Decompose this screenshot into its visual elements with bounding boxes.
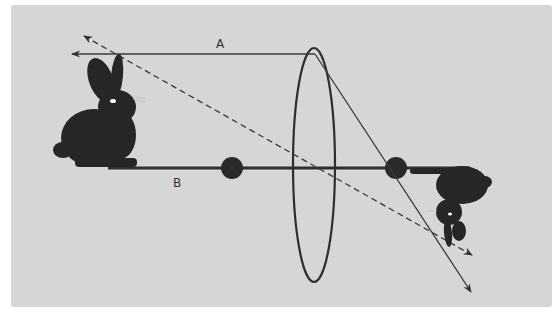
label-ray-a: A [216, 37, 225, 51]
rabbit-object-icon [53, 54, 137, 167]
convex-lens [293, 48, 335, 282]
rabbit-eye-icon [110, 99, 116, 103]
lens-ray-diagram: A B [0, 0, 558, 316]
image-rabbit-eye-icon [448, 213, 452, 216]
focal-point-left [221, 157, 243, 179]
ray-central-dashed [84, 36, 472, 255]
rabbit-image-icon [410, 166, 492, 247]
label-axis-b: B [173, 176, 181, 190]
focal-point-right [385, 157, 407, 179]
rabbit-whiskers-icon [133, 96, 146, 102]
